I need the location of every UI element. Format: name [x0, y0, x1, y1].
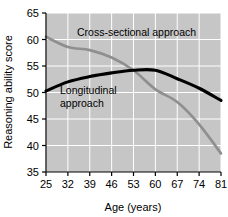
x-tick-label: 32: [62, 178, 74, 190]
y-tick-label: 65: [27, 7, 39, 19]
y-tick-label: 45: [27, 113, 39, 125]
reasoning-ability-chart: 35404550556065 253239465360677481 Age (y…: [0, 0, 228, 217]
x-axis-ticks: [46, 172, 221, 176]
y-axis-tick-labels: 35404550556065: [27, 7, 39, 178]
x-tick-label: 25: [40, 178, 52, 190]
x-tick-label: 67: [171, 178, 183, 190]
x-tick-label: 39: [84, 178, 96, 190]
y-tick-label: 40: [27, 140, 39, 152]
x-tick-label: 60: [149, 178, 161, 190]
x-axis-title: Age (years): [105, 201, 162, 213]
y-tick-label: 50: [27, 87, 39, 99]
x-axis-tick-labels: 253239465360677481: [40, 178, 227, 190]
y-tick-label: 55: [27, 60, 39, 72]
x-tick-label: 46: [106, 178, 118, 190]
x-tick-label: 53: [127, 178, 139, 190]
y-tick-label: 35: [27, 166, 39, 178]
annotation-cross-sectional-label: Cross-sectional approach: [77, 26, 196, 38]
chart-canvas: 35404550556065 253239465360677481 Age (y…: [0, 0, 228, 217]
x-tick-label: 74: [193, 178, 205, 190]
y-tick-label: 60: [27, 34, 39, 46]
y-axis-title: Reasoning ability score: [2, 35, 14, 149]
x-tick-label: 81: [215, 178, 227, 190]
